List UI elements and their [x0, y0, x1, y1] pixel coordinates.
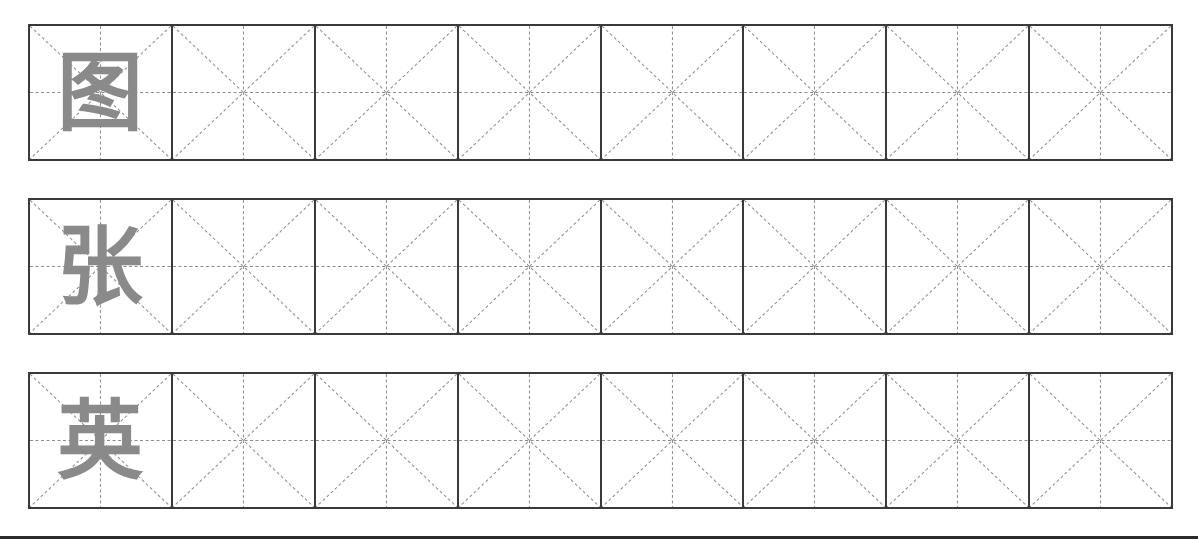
mi-zi-guide-lines	[1030, 200, 1171, 333]
model-character: 英	[30, 374, 171, 507]
mi-zi-guide-lines	[887, 26, 1028, 159]
practice-cell	[1028, 374, 1171, 507]
mi-zi-guide-lines	[459, 374, 600, 507]
model-character: 张	[30, 200, 171, 333]
mi-zi-guide-lines	[744, 374, 885, 507]
practice-cell	[457, 26, 600, 159]
mi-zi-guide-lines	[887, 200, 1028, 333]
example-cell: 图	[30, 26, 171, 159]
practice-sheet: 图 张 英	[0, 0, 1198, 539]
practice-cell	[1028, 26, 1171, 159]
practice-cell	[885, 374, 1028, 507]
practice-cell	[600, 26, 743, 159]
practice-row-1: 图	[28, 24, 1173, 161]
mi-zi-guide-lines	[316, 26, 457, 159]
mi-zi-guide-lines	[744, 200, 885, 333]
practice-cell	[314, 200, 457, 333]
mi-zi-guide-lines	[459, 200, 600, 333]
example-cell: 英	[30, 374, 171, 507]
practice-row-2: 张	[28, 198, 1173, 335]
practice-cell	[171, 374, 314, 507]
practice-cell	[171, 200, 314, 333]
mi-zi-guide-lines	[316, 374, 457, 507]
mi-zi-guide-lines	[602, 26, 743, 159]
practice-cell	[742, 374, 885, 507]
practice-cell	[885, 26, 1028, 159]
practice-cell	[885, 200, 1028, 333]
practice-cell	[314, 26, 457, 159]
practice-cell	[314, 374, 457, 507]
mi-zi-guide-lines	[602, 374, 743, 507]
practice-row-3: 英	[28, 372, 1173, 509]
practice-cell	[171, 26, 314, 159]
mi-zi-guide-lines	[173, 26, 314, 159]
mi-zi-guide-lines	[459, 26, 600, 159]
practice-cell	[1028, 200, 1171, 333]
mi-zi-guide-lines	[316, 200, 457, 333]
mi-zi-guide-lines	[173, 200, 314, 333]
practice-cell	[600, 200, 743, 333]
model-character: 图	[30, 26, 171, 159]
mi-zi-guide-lines	[602, 200, 743, 333]
mi-zi-guide-lines	[1030, 374, 1171, 507]
practice-cell	[742, 200, 885, 333]
practice-cell	[742, 26, 885, 159]
practice-cell	[600, 374, 743, 507]
practice-cell	[457, 200, 600, 333]
practice-cell	[457, 374, 600, 507]
mi-zi-guide-lines	[173, 374, 314, 507]
mi-zi-guide-lines	[1030, 26, 1171, 159]
example-cell: 张	[30, 200, 171, 333]
mi-zi-guide-lines	[744, 26, 885, 159]
mi-zi-guide-lines	[887, 374, 1028, 507]
